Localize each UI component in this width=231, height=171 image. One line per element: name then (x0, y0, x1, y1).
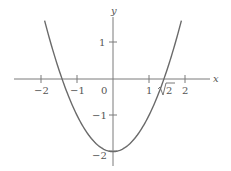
x-tick-label: 2 (166, 85, 172, 96)
y-tick-label: 1 (99, 37, 105, 48)
origin-label: 0 (101, 85, 107, 96)
x-tick-label: −2 (34, 85, 49, 96)
y-tick-label: −1 (92, 110, 107, 121)
y-tick-label: −2 (92, 150, 107, 161)
x-axis-label: x (213, 73, 219, 84)
y-axis-label: y (110, 5, 117, 16)
x-tick-label: 2 (182, 85, 188, 96)
parabola-plot: x y −2 −1 0 1 2 2 1 −1 −2 (0, 0, 231, 171)
x-tick-label: 1 (146, 85, 152, 96)
x-tick-label: −1 (70, 85, 85, 96)
